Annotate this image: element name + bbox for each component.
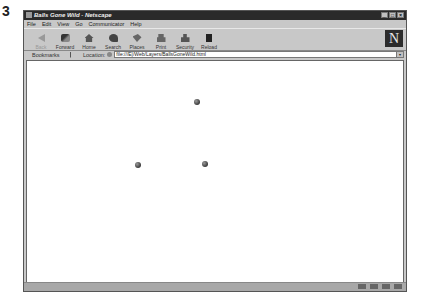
composer-icon[interactable] — [394, 284, 402, 289]
forward-button[interactable]: Forward — [54, 30, 76, 50]
window-title: Balls Gone Wild - Netscape — [34, 12, 112, 18]
page-content — [26, 60, 404, 284]
ball-2[interactable] — [135, 162, 141, 168]
security-button[interactable]: Security — [174, 30, 196, 50]
menu-go[interactable]: Go — [75, 20, 82, 28]
places-button[interactable]: Places — [126, 30, 148, 50]
location-url-input[interactable]: file:///E|/Web/Layers/BallsGoneWild.html… — [114, 51, 404, 58]
mail-icon[interactable] — [370, 284, 378, 289]
places-icon — [133, 34, 142, 42]
netscape-app-icon[interactable] — [26, 12, 32, 18]
bookmarks-button[interactable]: Bookmarks — [32, 52, 68, 58]
menu-edit[interactable]: Edit — [42, 20, 51, 28]
minimize-button[interactable]: _ — [381, 12, 388, 18]
search-button[interactable]: Search — [102, 30, 124, 50]
navigation-toolbar: Back Forward Home Search Places Print Se… — [24, 28, 406, 51]
browser-window: Balls Gone Wild - Netscape _ □ × File Ed… — [23, 10, 407, 292]
page-proxy-icon[interactable] — [107, 52, 112, 57]
search-icon — [109, 34, 118, 42]
maximize-button[interactable]: □ — [389, 12, 396, 18]
home-button[interactable]: Home — [78, 30, 100, 50]
navigator-icon[interactable] — [358, 284, 366, 289]
ball-3[interactable] — [202, 161, 208, 167]
bookmark-pin-icon[interactable] — [68, 52, 73, 58]
menu-view[interactable]: View — [57, 20, 69, 28]
security-lock-icon — [181, 34, 190, 42]
figure-number: 3 — [2, 3, 10, 19]
back-arrow-icon — [38, 34, 45, 42]
menu-communicator[interactable]: Communicator — [89, 20, 125, 28]
forward-arrow-icon — [61, 34, 70, 42]
menu-file[interactable]: File — [27, 20, 36, 28]
menu-help[interactable]: Help — [130, 20, 141, 28]
home-icon — [85, 34, 94, 42]
back-button[interactable]: Back — [30, 30, 52, 50]
reload-icon — [206, 34, 212, 42]
component-bar — [358, 284, 402, 289]
print-button[interactable]: Print — [150, 30, 172, 50]
title-bar[interactable]: Balls Gone Wild - Netscape _ □ × — [24, 11, 406, 20]
netscape-logo[interactable]: N — [385, 30, 403, 47]
ball-1[interactable] — [194, 99, 200, 105]
menu-bar: File Edit View Go Communicator Help — [24, 20, 406, 28]
discussion-icon[interactable] — [382, 284, 390, 289]
status-bar — [24, 282, 406, 291]
location-toolbar: Bookmarks Location: file:///E|/Web/Layer… — [24, 50, 406, 59]
location-label: Location: — [83, 52, 105, 58]
close-button[interactable]: × — [397, 12, 404, 18]
url-text: file:///E|/Web/Layers/BallsGoneWild.html — [116, 51, 206, 57]
url-dropdown-button[interactable]: ▾ — [396, 52, 403, 57]
reload-button[interactable]: Reload — [198, 30, 220, 50]
print-icon — [157, 34, 166, 42]
